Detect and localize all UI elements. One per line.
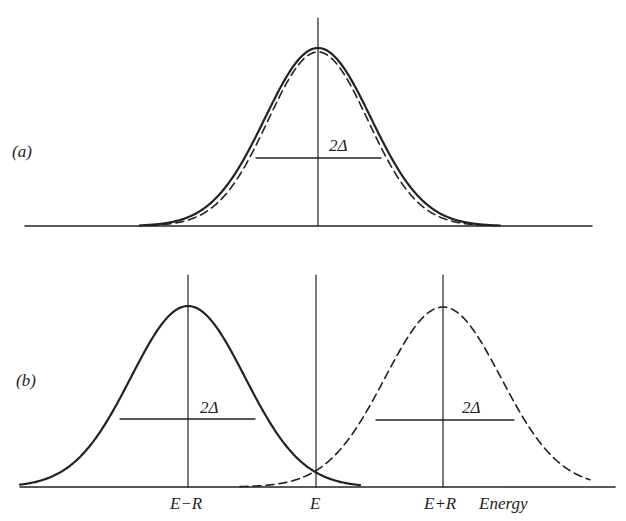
panel-a-label: (a) — [12, 142, 32, 161]
panel-b-label: (b) — [16, 371, 36, 390]
tick-label-e-plus-r: E+R — [423, 494, 457, 513]
panel-b-solid-curve — [20, 306, 360, 485]
panel-a-width-label: 2Δ — [329, 136, 348, 155]
figure-canvas: (a) 2Δ (b) 2Δ 2Δ E−R E E+R Energy — [0, 0, 626, 521]
panel-a-solid-curve — [140, 48, 500, 226]
panel-b-left-width-label: 2Δ — [200, 398, 219, 417]
x-axis-label-energy: Energy — [478, 494, 528, 513]
panel-b-right-width-label: 2Δ — [462, 398, 481, 417]
panel-b-dashed-curve — [240, 307, 590, 487]
tick-label-e-minus-r: E−R — [169, 494, 203, 513]
tick-label-e: E — [309, 494, 321, 513]
